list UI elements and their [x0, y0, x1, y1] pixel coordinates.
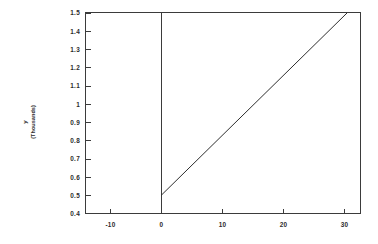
x-axis-ticks: [111, 209, 345, 214]
y-axis-ticks: [86, 13, 91, 213]
y-tick-label: 0.5: [70, 192, 80, 199]
y-tick-label: 0.9: [70, 119, 80, 126]
y-tick-label: 1.5: [70, 9, 80, 16]
y-tick-label: 0.6: [70, 174, 80, 181]
y-tick-label: 1.1: [70, 82, 80, 89]
y-axis-title-units: (Thousands): [30, 105, 36, 139]
y-tick-label: 1: [76, 101, 80, 108]
plot-frame: [86, 13, 361, 214]
x-axis-tick-labels: -10 0 10 20 30: [105, 221, 348, 228]
y-axis-tick-labels: 1.5 1.4 1.3 1.2 1.1 1 0.9 0.8 0.7 0.6 0.…: [70, 9, 80, 216]
y-tick-label: 1.2: [70, 64, 80, 71]
chart-canvas: 1.5 1.4 1.3 1.2 1.1 1 0.9 0.8 0.7 0.6 0.…: [0, 0, 378, 244]
y-tick-label: 0.8: [70, 137, 80, 144]
chart-figure: 1.5 1.4 1.3 1.2 1.1 1 0.9 0.8 0.7 0.6 0.…: [0, 0, 378, 244]
x-tick-label: 30: [341, 221, 349, 228]
y-axis-title-main: y: [21, 120, 28, 124]
x-tick-label: 0: [160, 221, 164, 228]
y-tick-label: 1.3: [70, 46, 80, 53]
y-tick-label: 0.4: [70, 210, 80, 217]
x-tick-label: 10: [219, 221, 227, 228]
y-tick-label: 1.4: [70, 28, 80, 35]
y-tick-label: 0.7: [70, 155, 80, 162]
x-tick-label: 20: [280, 221, 288, 228]
x-tick-label: -10: [105, 221, 115, 228]
data-series-line: [161, 13, 347, 196]
y-axis-title: y (Thousands): [21, 105, 36, 139]
